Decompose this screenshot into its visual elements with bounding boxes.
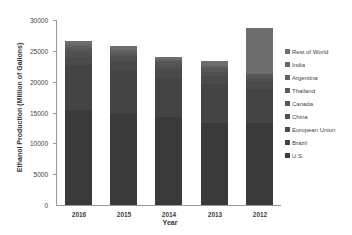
bar-segment [246,123,273,205]
legend-item: Thailand [285,84,335,97]
legend-item: Brazil [285,136,335,149]
legend-swatch-icon [285,127,290,132]
y-tick: 0 [14,202,48,209]
x-tick: 2013 [195,211,235,218]
legend-swatch-icon [285,49,290,54]
legend-item: European Union [285,123,335,136]
bar-2014 [155,0,182,205]
bar-segment [201,84,228,123]
bar-segment [110,114,137,205]
x-tick: 2015 [104,211,144,218]
y-axis [56,20,57,205]
bar-2012 [246,0,273,205]
y-tick: 30000 [14,17,48,24]
bar-segment [201,76,228,84]
bar-2016 [65,0,92,205]
bar-segment [65,110,92,205]
legend-swatch-icon [285,75,290,80]
bar-segment [246,81,273,88]
bar-segment [155,117,182,205]
bar-segment [110,70,137,114]
legend: Rest of World India Argentina Thailand C… [285,45,335,162]
y-tick: 5000 [14,171,48,178]
bar-segment [110,61,137,70]
legend-item: Argentina [285,71,335,84]
x-tick: 2014 [149,211,189,218]
bar-segment [65,65,92,110]
bar-2013 [201,0,228,205]
legend-swatch-icon [285,101,290,106]
legend-item: Canada [285,97,335,110]
y-tick: 15000 [14,110,48,117]
legend-swatch-icon [285,153,290,158]
legend-swatch-icon [285,114,290,119]
x-axis-title: Year [150,219,190,226]
y-tick: 25000 [14,48,48,55]
bar-segment [246,89,273,123]
bar-segment [65,57,92,66]
legend-item: China [285,110,335,123]
bar-segment [155,69,182,78]
y-tick: 20000 [14,79,48,86]
legend-swatch-icon [285,88,290,93]
legend-swatch-icon [285,62,290,67]
legend-swatch-icon [285,140,290,145]
legend-item: India [285,58,335,71]
x-axis [56,205,281,206]
bar-segment [155,78,182,116]
bar-segment [246,28,273,73]
legend-item: Rest of World [285,45,335,58]
legend-item: U.S. [285,149,335,162]
bar-segment [201,123,228,205]
y-tick: 10000 [14,140,48,147]
x-tick: 2012 [240,211,280,218]
x-tick: 2016 [59,211,99,218]
bar-2015 [110,0,137,205]
